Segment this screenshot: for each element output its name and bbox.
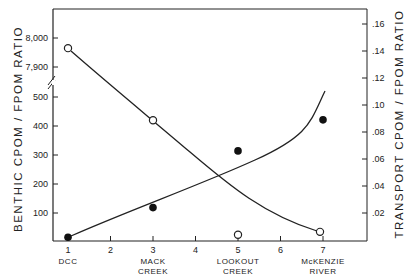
left-tick-label: 300 (33, 150, 48, 160)
right-tick-label: .06 (372, 154, 385, 164)
x-category-label: McKENZIE (301, 257, 345, 266)
left-tick-label: 100 (33, 208, 48, 218)
benthic-data-point (149, 117, 156, 124)
plot-frame (53, 9, 367, 241)
left-tick-label: 200 (33, 179, 48, 189)
benthic-fit-curve (71, 51, 317, 231)
right-tick-label: .04 (372, 181, 385, 191)
left-tick-label: 500 (33, 92, 48, 102)
x-tick-label: 2 (108, 245, 113, 255)
benthic-data-point (64, 45, 71, 52)
right-tick-label: .12 (372, 73, 385, 83)
chart: 1002003004005007,9008,000 .02.04.06.08.1… (0, 0, 414, 280)
transport-fit-curve (71, 91, 325, 236)
right-axis-title: TRANSPORT CPOM / FPOM RATIO (393, 10, 405, 239)
axis-break-icon (48, 76, 55, 89)
transport-data-point (64, 234, 72, 242)
right-tick-label: .10 (372, 100, 385, 110)
x-tick-label: 5 (235, 245, 240, 255)
benthic-data-point (234, 231, 241, 238)
x-category-label: DCC (59, 257, 78, 266)
right-tick-label: .02 (372, 208, 385, 218)
left-tick-label: 7,900 (25, 62, 48, 72)
benthic-data-point (316, 228, 323, 235)
x-tick-label: 3 (150, 245, 155, 255)
x-category-label: CREEK (223, 267, 253, 276)
right-axis: .02.04.06.08.10.12.14.16 (362, 19, 385, 218)
transport-data-point (234, 147, 242, 155)
x-axis: 1234567DCCMACKCREEKLOOKOUTCREEKMcKENZIER… (59, 236, 345, 276)
right-tick-label: .16 (372, 19, 385, 29)
x-category-label: LOOKOUT (217, 257, 260, 266)
x-tick-label: 7 (320, 245, 325, 255)
left-tick-label: 8,000 (25, 33, 48, 43)
x-tick-label: 1 (65, 245, 70, 255)
right-tick-label: .14 (372, 46, 385, 56)
right-tick-label: .08 (372, 127, 385, 137)
x-category-label: RIVER (310, 267, 337, 276)
x-tick-label: 4 (193, 245, 198, 255)
x-category-label: MACK (140, 257, 165, 266)
transport-data-point (319, 116, 327, 124)
left-axis-title: BENTHIC CPOM / FPOM RATIO (12, 26, 24, 232)
x-category-label: CREEK (138, 267, 168, 276)
transport-data-point (149, 204, 157, 212)
x-tick-label: 6 (278, 245, 283, 255)
left-tick-label: 400 (33, 121, 48, 131)
